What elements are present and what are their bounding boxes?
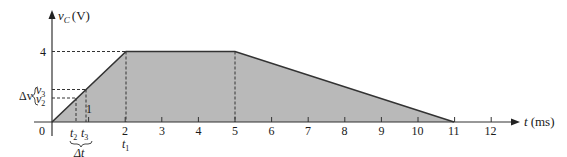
y-tick-label-4: 4 — [40, 45, 46, 59]
x-tick-label: 2 — [122, 124, 128, 138]
x-tick-label: 9 — [379, 124, 385, 138]
x-axis-arrow-icon — [511, 119, 520, 126]
x-tick-label: 3 — [159, 124, 165, 138]
x-tick-label: 8 — [342, 124, 348, 138]
delta-t-label: Δt — [73, 146, 85, 157]
capacitor-voltage-waveform: vC(V) 4 0 1 2 3 4 5 6 7 8 9 10 11 12 t(m… — [0, 0, 567, 157]
delta-v-label: Δv — [19, 89, 33, 103]
origin-label: 0 — [39, 124, 45, 138]
y-axis-label: vC(V) — [58, 8, 90, 25]
t2-label: t2 — [70, 126, 77, 142]
t3-label: t3 — [81, 126, 88, 142]
x-tick-label: 6 — [269, 124, 275, 138]
t1-label: t1 — [122, 137, 129, 153]
x-tick-label: 10 — [412, 124, 424, 138]
x-tick-label: 5 — [232, 124, 238, 138]
waveform-fill — [52, 52, 454, 123]
x-tick-label: 11 — [448, 124, 460, 138]
x-tick-label: 12 — [485, 124, 497, 138]
x-axis-label: t(ms) — [524, 114, 554, 129]
x-tick-label: 1 — [86, 102, 92, 116]
x-tick-label: 7 — [305, 124, 311, 138]
y-axis-arrow-icon — [49, 10, 56, 19]
x-tick-label: 4 — [196, 124, 202, 138]
